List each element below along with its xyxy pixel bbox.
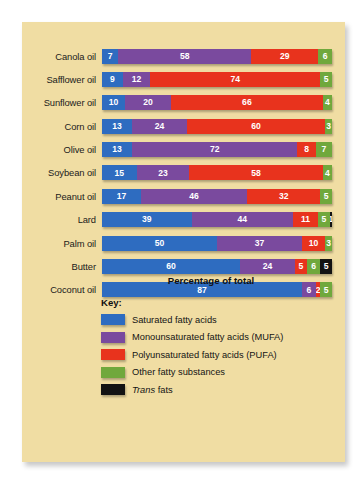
row-label: Safflower oil xyxy=(22,74,102,85)
figure-panel: Canola oil758296Safflower oil912745Sunfl… xyxy=(22,22,345,462)
bar-segment-mufa: 12 xyxy=(123,72,151,87)
chart-row: Corn oil1324603 xyxy=(22,118,345,134)
bar-segment-trans: 1 xyxy=(330,212,332,227)
segment-value-label: 15 xyxy=(114,169,124,178)
segment-value-label: 66 xyxy=(242,98,252,107)
stacked-bar: 912745 xyxy=(102,72,332,87)
bar-segment-pufa: 11 xyxy=(293,212,318,227)
segment-value-label: 39 xyxy=(142,215,152,224)
legend-item-trans: Trans fats xyxy=(101,382,341,397)
segment-value-label: 72 xyxy=(210,145,220,154)
segment-value-label: 13 xyxy=(112,145,122,154)
bar-segment-mufa: 24 xyxy=(132,119,187,134)
bar-segment-mufa: 46 xyxy=(141,189,247,204)
segment-value-label: 74 xyxy=(231,75,241,84)
bar-segment-sat: 9 xyxy=(102,72,123,87)
chart-row: Sunflower oil1020664 xyxy=(22,95,345,111)
segment-value-label: 12 xyxy=(132,75,142,84)
segment-value-label: 5 xyxy=(322,215,327,224)
chart-row: Peanut oil1746325 xyxy=(22,188,345,204)
bar-segment-pufa: 32 xyxy=(247,189,321,204)
row-label: Corn oil xyxy=(22,121,102,132)
bar-segment-mufa: 72 xyxy=(132,142,298,157)
segment-value-label: 37 xyxy=(255,239,265,248)
segment-value-label: 5 xyxy=(324,286,329,295)
chart-row: Canola oil758296 xyxy=(22,48,345,64)
segment-value-label: 10 xyxy=(309,239,319,248)
segment-value-label: 24 xyxy=(155,122,165,131)
bar-segment-pufa: 29 xyxy=(251,49,318,64)
segment-value-label: 3 xyxy=(326,239,331,248)
legend-label-text: fats xyxy=(158,385,173,395)
chart-row: Soybean oil1523584 xyxy=(22,165,345,181)
chart-legend: Key: Saturated fatty acidsMonounsaturate… xyxy=(101,297,341,400)
bar-segment-pufa: 10 xyxy=(302,236,325,251)
bar-segment-other: 3 xyxy=(325,236,332,251)
bar-segment-mufa: 44 xyxy=(192,212,293,227)
bar-segment-mufa: 37 xyxy=(217,236,302,251)
legend-label-italic: Trans xyxy=(132,385,155,395)
legend-swatch-pufa xyxy=(101,349,125,360)
bar-segment-pufa: 5 xyxy=(295,259,307,274)
segment-value-label: 46 xyxy=(189,192,199,201)
segment-value-label: 87 xyxy=(197,286,207,295)
bar-segment-mufa: 20 xyxy=(125,95,171,110)
stacked-bar: 758296 xyxy=(102,49,332,64)
segment-value-label: 58 xyxy=(180,52,190,61)
segment-value-label: 20 xyxy=(143,98,153,107)
bar-segment-other: 6 xyxy=(318,49,332,64)
legend-label: Trans fats xyxy=(132,385,173,395)
legend-label: Saturated fatty acids xyxy=(132,315,217,325)
bar-segment-pufa: 60 xyxy=(187,119,325,134)
bar-segment-mufa: 58 xyxy=(118,49,251,64)
stacked-bar: 1324603 xyxy=(102,119,332,134)
chart-row: Butter6024565 xyxy=(22,259,345,275)
stacked-bar: 5037103 xyxy=(102,236,332,251)
legend-item-sat: Saturated fatty acids xyxy=(101,312,341,327)
row-label: Olive oil xyxy=(22,144,102,155)
segment-value-label: 9 xyxy=(110,75,115,84)
stacked-bar: 1746325 xyxy=(102,189,332,204)
chart-row: Palm oil5037103 xyxy=(22,235,345,251)
segment-value-label: 23 xyxy=(158,169,168,178)
legend-swatch-sat xyxy=(101,314,125,325)
bar-segment-other: 5 xyxy=(320,189,332,204)
legend-swatch-other xyxy=(101,367,125,378)
segment-value-label: 44 xyxy=(238,215,248,224)
stacked-bar: 39441151 xyxy=(102,212,332,227)
bar-segment-sat: 7 xyxy=(102,49,118,64)
bar-segment-pufa: 74 xyxy=(150,72,320,87)
segment-value-label: 24 xyxy=(263,262,273,271)
stacked-bar: 6024565 xyxy=(102,259,332,274)
segment-value-label: 60 xyxy=(251,122,261,131)
row-label: Butter xyxy=(22,261,102,272)
bar-segment-sat: 15 xyxy=(102,165,137,180)
segment-value-label: 13 xyxy=(112,122,122,131)
bar-segment-other: 4 xyxy=(323,165,332,180)
stacked-bar: 1020664 xyxy=(102,95,332,110)
segment-value-label: 5 xyxy=(324,75,329,84)
bar-segment-sat: 60 xyxy=(102,259,240,274)
segment-value-label: 10 xyxy=(109,98,119,107)
bar-segment-other: 3 xyxy=(325,119,332,134)
legend-swatch-mufa xyxy=(101,332,125,343)
row-label: Palm oil xyxy=(22,238,102,249)
row-label: Lard xyxy=(22,214,102,225)
legend-items: Saturated fatty acidsMonounsaturated fat… xyxy=(101,312,341,397)
segment-value-label: 58 xyxy=(251,169,261,178)
legend-label: Polyunsaturated fatty acids (PUFA) xyxy=(132,350,277,360)
bar-segment-trans: 5 xyxy=(320,259,332,274)
bar-segment-pufa: 66 xyxy=(171,95,323,110)
row-label: Sunflower oil xyxy=(22,97,102,108)
bar-segment-other: 5 xyxy=(318,212,330,227)
segment-value-label: 4 xyxy=(325,169,330,178)
bar-segment-sat: 50 xyxy=(102,236,217,251)
row-label: Coconut oil xyxy=(22,284,102,295)
legend-item-other: Other fatty substances xyxy=(101,365,341,380)
legend-title: Key: xyxy=(101,297,341,308)
chart-row: Lard39441151 xyxy=(22,212,345,228)
segment-value-label: 50 xyxy=(155,239,165,248)
bar-segment-other: 4 xyxy=(323,95,332,110)
segment-value-label: 7 xyxy=(108,52,113,61)
legend-item-mufa: Monounsaturated fatty acids (MUFA) xyxy=(101,330,341,345)
